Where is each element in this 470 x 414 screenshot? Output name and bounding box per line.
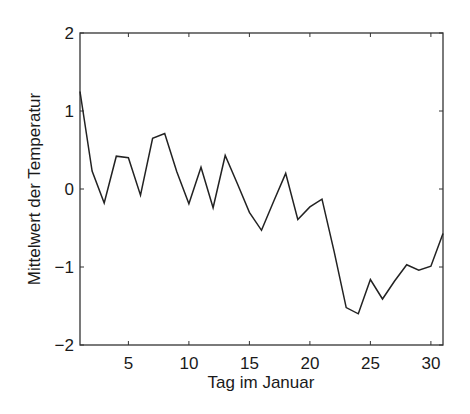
x-tick-label: 15 — [240, 354, 259, 373]
x-tick-label: 25 — [361, 354, 380, 373]
y-axis-title: Mittelwert der Temperatur — [25, 92, 44, 285]
y-tick-label: −1 — [55, 258, 74, 277]
y-tick-label: 2 — [65, 24, 74, 43]
y-tick-label: 0 — [65, 180, 74, 199]
y-tick-label: −2 — [55, 336, 74, 355]
x-tick-label: 30 — [421, 354, 440, 373]
x-tick-label: 5 — [124, 354, 133, 373]
x-tick-label: 10 — [179, 354, 198, 373]
x-tick-label: 20 — [300, 354, 319, 373]
plot-area — [80, 33, 443, 345]
x-axis-title: Tag im Januar — [208, 373, 315, 392]
line-chart: 51015202530 −2−1012 Tag im Januar Mittel… — [0, 0, 470, 414]
y-tick-label: 1 — [65, 102, 74, 121]
